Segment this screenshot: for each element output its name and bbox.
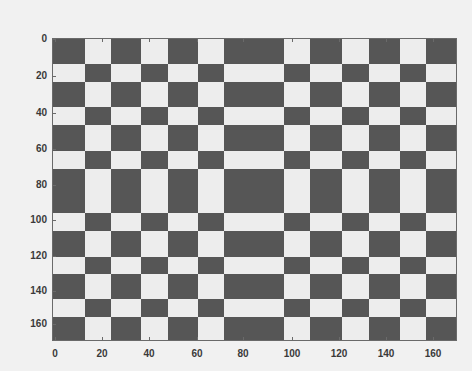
- checker-cell: [310, 231, 342, 257]
- checker-cell: [284, 39, 310, 64]
- checker-cell: [284, 107, 310, 125]
- checker-cell: [224, 39, 284, 64]
- checker-cell: [111, 125, 141, 151]
- checker-cell: [53, 213, 85, 231]
- checker-cell: [284, 231, 310, 257]
- checker-cell: [369, 231, 400, 257]
- checker-cell: [53, 39, 85, 64]
- checker-cell: [198, 39, 224, 64]
- checker-cell: [198, 82, 224, 107]
- checker-cell: [342, 213, 369, 231]
- checker-cell: [168, 169, 198, 213]
- checker-cell: [224, 257, 284, 274]
- checker-cell: [224, 82, 284, 107]
- x-tick-mark: [243, 337, 244, 340]
- checker-cell: [426, 317, 456, 340]
- y-tick-label: 0: [11, 34, 47, 44]
- x-tick-mark-top: [55, 39, 56, 42]
- checker-cell: [111, 274, 141, 299]
- checker-cell: [168, 257, 198, 274]
- checker-cell: [400, 274, 426, 299]
- checker-cell: [400, 257, 426, 274]
- checker-cell: [426, 39, 456, 64]
- checker-cell: [224, 125, 284, 151]
- checker-cell: [426, 151, 456, 169]
- x-tick-label: 120: [324, 349, 354, 359]
- checker-cell: [224, 274, 284, 299]
- checker-cell: [310, 169, 342, 213]
- checker-cell: [53, 317, 85, 340]
- y-tick-mark: [53, 324, 56, 325]
- x-tick-label: 20: [87, 349, 117, 359]
- x-tick-mark-top: [243, 39, 244, 42]
- checker-cell: [400, 169, 426, 213]
- y-tick-label: 160: [11, 319, 47, 329]
- checker-cell: [111, 82, 141, 107]
- checker-cell: [111, 107, 141, 125]
- checker-cell: [168, 125, 198, 151]
- x-tick-mark: [339, 337, 340, 340]
- checker-cell: [342, 151, 369, 169]
- checker-cell: [224, 64, 284, 82]
- checker-cell: [111, 317, 141, 340]
- y-tick-mark: [53, 149, 56, 150]
- checker-cell: [53, 82, 85, 107]
- checker-cell: [53, 125, 85, 151]
- checker-cell: [85, 231, 111, 257]
- x-tick-label: 60: [182, 349, 212, 359]
- checker-cell: [342, 317, 369, 340]
- x-tick-mark-top: [102, 39, 103, 42]
- checker-cell: [369, 107, 400, 125]
- x-tick-label: 80: [228, 349, 258, 359]
- checker-cell: [284, 82, 310, 107]
- checker-cell: [369, 151, 400, 169]
- checker-cell: [53, 274, 85, 299]
- checker-cell: [284, 169, 310, 213]
- checker-cell: [369, 257, 400, 274]
- checker-cell: [426, 257, 456, 274]
- checker-cell: [85, 125, 111, 151]
- checker-cell: [426, 107, 456, 125]
- checker-cell: [198, 213, 224, 231]
- checker-cell: [141, 257, 168, 274]
- x-tick-label: 160: [418, 349, 448, 359]
- x-tick-label: 0: [40, 349, 70, 359]
- y-tick-label: 120: [11, 251, 47, 261]
- checker-cell: [141, 317, 168, 340]
- checker-cell: [400, 213, 426, 231]
- checker-cell: [111, 151, 141, 169]
- y-tick-label: 60: [11, 144, 47, 154]
- x-tick-mark-top: [149, 39, 150, 42]
- checker-cell: [198, 274, 224, 299]
- checker-cell: [342, 125, 369, 151]
- checker-cell: [198, 125, 224, 151]
- checker-cell: [284, 151, 310, 169]
- x-tick-mark-top: [433, 39, 434, 42]
- y-tick-mark: [53, 76, 56, 77]
- x-tick-label: 100: [277, 349, 307, 359]
- checker-cell: [342, 231, 369, 257]
- checker-cell: [369, 169, 400, 213]
- checker-cell: [400, 82, 426, 107]
- checker-cell: [426, 299, 456, 317]
- y-tick-label: 40: [11, 108, 47, 118]
- checker-cell: [426, 274, 456, 299]
- checker-cell: [342, 257, 369, 274]
- checker-cell: [400, 107, 426, 125]
- checker-cell: [141, 299, 168, 317]
- checker-cell: [85, 64, 111, 82]
- y-tick-mark: [53, 185, 56, 186]
- checker-cell: [310, 64, 342, 82]
- x-tick-mark: [55, 337, 56, 340]
- y-tick-mark: [53, 256, 56, 257]
- checker-cell: [198, 257, 224, 274]
- checker-cell: [53, 64, 85, 82]
- y-tick-mark: [53, 113, 56, 114]
- checker-cell: [224, 169, 284, 213]
- x-tick-label: 140: [371, 349, 401, 359]
- checker-cell: [53, 107, 85, 125]
- x-tick-mark: [292, 337, 293, 340]
- checker-cell: [400, 151, 426, 169]
- checker-cell: [369, 317, 400, 340]
- checker-cell: [400, 317, 426, 340]
